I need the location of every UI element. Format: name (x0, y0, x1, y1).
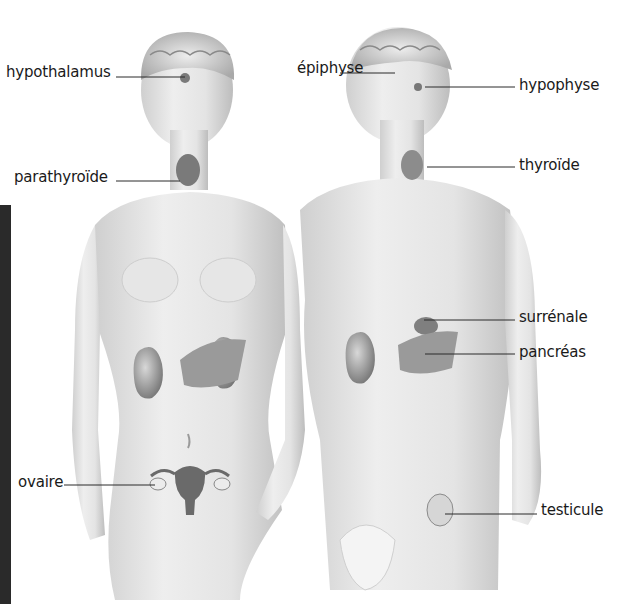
endocrine-diagram: hypothalamus épiphyse hypophyse parathyr… (0, 0, 618, 604)
label-hypothalamus: hypothalamus (6, 63, 111, 81)
label-thyroide: thyroïde (519, 156, 580, 174)
female-figure (72, 32, 305, 600)
label-surrenale: surrénale (519, 308, 588, 326)
label-hypophyse: hypophyse (519, 76, 599, 94)
label-epiphyse: épiphyse (297, 59, 363, 77)
label-ovaire: ovaire (18, 473, 63, 491)
label-pancreas: pancréas (519, 343, 586, 361)
label-parathyroide: parathyroïde (14, 168, 108, 186)
male-figure (300, 27, 541, 590)
label-testicule: testicule (541, 501, 603, 519)
